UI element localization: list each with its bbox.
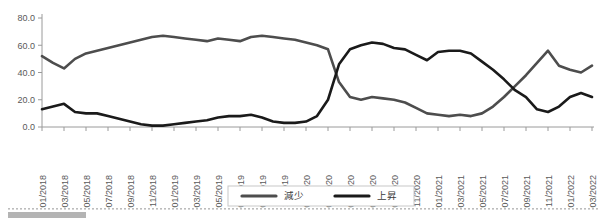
footer-decoration bbox=[8, 208, 598, 218]
x-axis-tick-label: 09/2018 bbox=[126, 175, 136, 208]
x-axis-tick-label: 07/2021 bbox=[500, 175, 510, 208]
footer-bar bbox=[8, 212, 86, 218]
x-axis-tick-label: 05/2019 bbox=[214, 175, 224, 208]
x-axis-tick-label: 05/2018 bbox=[82, 175, 92, 208]
x-axis-tick-label: 11/2021 bbox=[544, 175, 554, 207]
x-axis-tick-label: 09/2021 bbox=[522, 175, 532, 208]
y-axis-tick-label: 0.0 bbox=[22, 122, 35, 132]
x-axis-tick-label: 01/2021 bbox=[434, 175, 444, 208]
x-axis-tick-label: 03/2019 bbox=[192, 175, 202, 208]
y-axis-tick-label: 40.0 bbox=[17, 68, 35, 78]
series-line-2 bbox=[42, 43, 592, 126]
x-axis-tick-label: 03/2022 bbox=[588, 175, 598, 208]
y-axis-tick-label: 20.0 bbox=[17, 95, 35, 105]
chart-container: 0.020.040.060.080.0 01/201803/201805/201… bbox=[0, 0, 606, 222]
series-lines bbox=[42, 36, 592, 126]
y-axis-tick-label: 60.0 bbox=[17, 41, 35, 51]
x-axis-tick-label: 01/2019 bbox=[170, 175, 180, 208]
chart-legend: 減少上昇 bbox=[228, 186, 414, 206]
legend-label-2: 上昇 bbox=[377, 190, 397, 201]
x-axis-tick-label: 11/2018 bbox=[148, 175, 158, 207]
x-axis-tick-label: 03/2018 bbox=[60, 175, 70, 208]
x-axis-tick-label: 01/2022 bbox=[566, 175, 576, 208]
x-axis-tick-label: 05/2021 bbox=[478, 175, 488, 208]
line-chart: 0.020.040.060.080.0 01/201803/201805/201… bbox=[0, 0, 606, 222]
y-axis-tick-label: 80.0 bbox=[17, 13, 35, 23]
x-axis-tick-label: 01/2018 bbox=[38, 175, 48, 208]
x-axis-tick-label: 07/2018 bbox=[104, 175, 114, 208]
y-axis: 0.020.040.060.080.0 bbox=[17, 13, 42, 132]
series-line-1 bbox=[42, 36, 592, 116]
x-axis-tick-label: 03/2021 bbox=[456, 175, 466, 208]
legend-label-1: 減少 bbox=[284, 190, 304, 201]
